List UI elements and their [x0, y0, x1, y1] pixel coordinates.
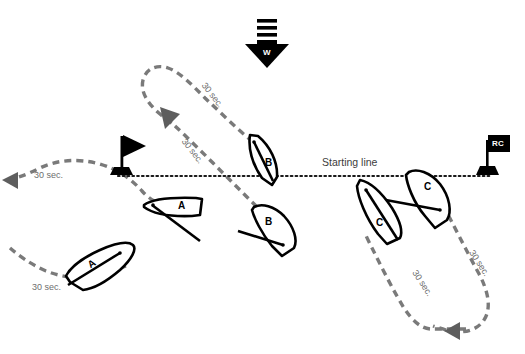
boat-a-lower-mast	[118, 251, 122, 255]
boat-b-upper	[250, 135, 278, 185]
boat-label-c-lower: C	[376, 217, 383, 228]
pin-flag-base	[110, 167, 133, 175]
rc-flag-label: RC	[492, 139, 504, 148]
boat-c-track-arrow	[444, 322, 460, 340]
boat-label-c-upper: C	[424, 181, 431, 192]
boat-b-lower-hull	[252, 205, 296, 256]
boat-c-lower	[357, 180, 401, 244]
boat-a-upper	[144, 198, 202, 241]
pin-end-flag	[110, 135, 146, 175]
boat-a-track-arrow	[2, 172, 18, 189]
boat-b-track	[142, 67, 256, 206]
boat-label-b-upper: B	[265, 157, 272, 168]
boat-c-upper-hull	[406, 171, 450, 229]
time-label-a-outbound: 30 sec.	[34, 170, 63, 180]
starting-line-label: Starting line	[322, 156, 377, 168]
wind-marker-label: W	[263, 48, 271, 57]
boat-label-b-lower: B	[265, 216, 272, 227]
time-label-a-return: 30 sec.	[32, 282, 61, 292]
wind-arrow	[245, 19, 289, 68]
boat-b-lower-mast	[281, 243, 285, 247]
boat-a-upper-mast	[151, 203, 155, 207]
boat-c-lower-mast	[364, 188, 368, 192]
diagram-canvas: Starting line W RC A A B B C C 30 sec. 3…	[0, 0, 525, 354]
boat-label-a-upper: A	[178, 200, 185, 211]
boat-b-outbound-path	[142, 67, 253, 142]
pin-flag-triangle	[123, 135, 146, 157]
rc-flag-base	[476, 166, 499, 175]
boat-a-lower	[66, 243, 134, 290]
boat-c-upper-mast	[438, 208, 442, 212]
boat-b-lower	[238, 205, 296, 256]
boat-b-upper-mast	[252, 140, 256, 144]
